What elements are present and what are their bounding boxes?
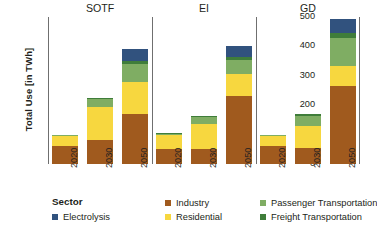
bar-sotf-2030[interactable]: 2030 bbox=[87, 17, 113, 164]
bar-group-ei: EI202020302050 bbox=[152, 17, 256, 164]
y-axis-title: Total Use [in TWh] bbox=[23, 15, 34, 165]
segment-electrolysis[interactable] bbox=[226, 46, 252, 56]
legend-item-freight-transportation[interactable]: Freight Transportation bbox=[260, 210, 377, 224]
bar-group-gd: GD202020302050 bbox=[256, 17, 360, 164]
legend-column-2: IndustryResidential bbox=[165, 196, 222, 224]
segment-residential[interactable] bbox=[330, 66, 356, 87]
bars: 202020302050 bbox=[256, 17, 360, 164]
legend-item-industry[interactable]: Industry bbox=[165, 196, 222, 210]
legend-item-passenger-transportation[interactable]: Passenger Transportation bbox=[260, 196, 377, 210]
x-tick-2020: 2020 bbox=[277, 124, 287, 168]
bar-ei-2020[interactable]: 2020 bbox=[156, 17, 182, 164]
segment-electrolysis[interactable] bbox=[122, 49, 148, 61]
group-title: SOTF bbox=[48, 2, 152, 14]
x-tick-2030: 2030 bbox=[208, 124, 218, 168]
x-tick-2050: 2050 bbox=[139, 124, 149, 168]
x-tick-2030: 2030 bbox=[312, 124, 322, 168]
segment-passenger-transportation[interactable] bbox=[87, 99, 113, 106]
legend-title: Sector bbox=[52, 196, 83, 207]
legend-label: Residential bbox=[176, 212, 222, 222]
bar-ei-2030[interactable]: 2030 bbox=[191, 17, 217, 164]
bars: 202020302050 bbox=[152, 17, 256, 164]
segment-passenger-transportation[interactable] bbox=[226, 60, 252, 75]
legend-label: Freight Transportation bbox=[271, 212, 362, 222]
legend-column-3: Passenger TransportationFreight Transpor… bbox=[260, 196, 377, 224]
bar-sotf-2050[interactable]: 2050 bbox=[122, 17, 148, 164]
legend-swatch-icon bbox=[165, 200, 171, 206]
legend-item-electrolysis[interactable]: Electrolysis bbox=[52, 210, 110, 224]
legend-label: Passenger Transportation bbox=[271, 198, 377, 208]
legend-swatch-icon bbox=[260, 200, 266, 206]
bar-ei-2050[interactable]: 2050 bbox=[226, 17, 252, 164]
segment-passenger-transportation[interactable] bbox=[122, 64, 148, 82]
x-tick-2030: 2030 bbox=[104, 124, 114, 168]
segment-passenger-transportation[interactable] bbox=[330, 38, 356, 66]
segment-electrolysis[interactable] bbox=[330, 19, 356, 34]
plot-area: SOTF202020302050EI202020302050GD20202030… bbox=[48, 17, 360, 164]
x-tick-2050: 2050 bbox=[243, 124, 253, 168]
group-title: GD bbox=[256, 2, 360, 14]
group-title: EI bbox=[152, 2, 256, 14]
legend-swatch-icon bbox=[52, 214, 58, 220]
segment-residential[interactable] bbox=[122, 82, 148, 114]
legend-label: Industry bbox=[176, 198, 209, 208]
bar-gd-2020[interactable]: 2020 bbox=[260, 17, 286, 164]
legend-item-residential[interactable]: Residential bbox=[165, 210, 222, 224]
bar-gd-2030[interactable]: 2030 bbox=[295, 17, 321, 164]
x-tick-2050: 2050 bbox=[347, 124, 357, 168]
segment-residential[interactable] bbox=[226, 74, 252, 96]
x-tick-2020: 2020 bbox=[69, 124, 79, 168]
legend-column-1: Electrolysis bbox=[52, 210, 110, 224]
bars: 202020302050 bbox=[48, 17, 152, 164]
legend-swatch-icon bbox=[165, 214, 171, 220]
legend-swatch-icon bbox=[260, 214, 266, 220]
bar-gd-2050[interactable]: 2050 bbox=[330, 17, 356, 164]
x-tick-2020: 2020 bbox=[173, 124, 183, 168]
legend-label: Electrolysis bbox=[63, 212, 110, 222]
bar-group-sotf: SOTF202020302050 bbox=[48, 17, 152, 164]
bar-sotf-2020[interactable]: 2020 bbox=[52, 17, 78, 164]
